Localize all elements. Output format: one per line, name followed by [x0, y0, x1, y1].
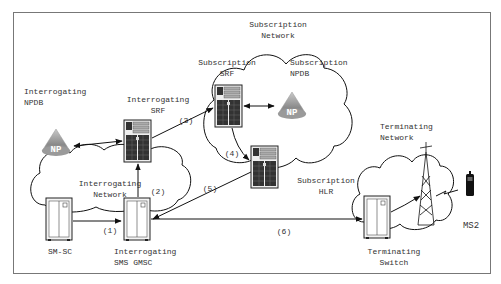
ms2-phone-icon: [466, 171, 474, 196]
terminating-network-label: Terminating Network: [380, 121, 456, 143]
step-2-label: (2): [148, 186, 168, 197]
sms-number-portability-diagram: NP: [0, 0, 501, 284]
interrogating-network-label: Interrogating Network: [72, 178, 148, 200]
sm-sc-label: SM-SC: [38, 246, 82, 257]
step-1-label: (1): [100, 225, 120, 236]
interrogating-gmsc-label: Interrogating SMS GMSC: [114, 246, 190, 268]
step-3-label: (3): [176, 115, 196, 126]
subscription-hlr-label: Subscription HLR: [288, 175, 364, 197]
interrogating-srf-icon: [124, 120, 151, 162]
interrogating-srf-label: Interrogating SRF: [120, 94, 196, 116]
subscription-npdb-label: Subscription NPDB: [290, 57, 362, 79]
step-6-label: (6): [274, 226, 294, 237]
step-5-label: (5): [200, 183, 220, 194]
terminating-switch-label: Terminating Switch: [356, 246, 432, 268]
subscription-srf-label: Subscription SRF: [192, 57, 262, 79]
subscription-srf-icon: [215, 85, 242, 127]
sm-sc-icon: [46, 198, 72, 241]
terminating-switch-icon: [364, 196, 390, 239]
subscription-network-label: Subscription Network: [238, 19, 318, 41]
ms2-label: MS2: [456, 221, 486, 232]
subscription-hlr-icon: [251, 146, 278, 188]
interrogating-npdb-icon: [42, 129, 70, 156]
interrogating-gmsc-icon: [124, 198, 150, 241]
interrogating-npdb-label: Interrogating NPDB: [24, 86, 100, 108]
step-4-label: (4): [222, 148, 242, 159]
